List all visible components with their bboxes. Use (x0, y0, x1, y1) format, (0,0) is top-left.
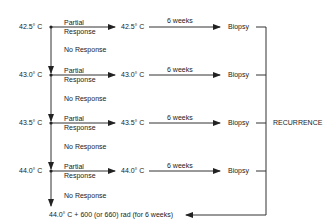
target-temp-1: 43.0° C (121, 71, 144, 79)
interval-2: 6 weeks (167, 114, 193, 122)
interval-1: 6 weeks (167, 66, 193, 74)
no-response-2: No Response (64, 143, 106, 151)
start-temp-2: 43.5° C (19, 119, 42, 127)
biopsy-1: Biopsy (228, 71, 249, 79)
biopsy-2: Biopsy (228, 119, 249, 127)
response-label-2: Response (64, 124, 96, 132)
start-temp-1: 43.0° C (19, 71, 42, 79)
partial-label-0: Partial (64, 19, 84, 27)
biopsy-3: Biopsy (228, 167, 249, 175)
start-temp-3: 44.0° C (19, 167, 42, 175)
no-response-3: No Response (64, 192, 106, 200)
interval-3: 6 weeks (167, 162, 193, 170)
target-temp-3: 44.0° C (121, 167, 144, 175)
partial-label-1: Partial (64, 67, 84, 75)
target-temp-0: 42.5° C (121, 23, 144, 31)
partial-label-2: Partial (64, 115, 84, 123)
response-label-0: Response (64, 28, 96, 36)
response-label-3: Response (64, 172, 96, 180)
biopsy-0: Biopsy (228, 23, 249, 31)
interval-0: 6 weeks (167, 17, 193, 25)
response-label-1: Response (64, 76, 96, 84)
start-temp-0: 42.5° C (19, 23, 42, 31)
no-response-1: No Response (64, 95, 106, 103)
final-treatment: 44.0° C + 600 (or 660) rad (for 6 weeks) (49, 211, 173, 219)
flow-lines (0, 0, 335, 221)
no-response-0: No Response (64, 46, 106, 54)
recurrence-label: RECURRENCE (273, 119, 322, 127)
partial-label-3: Partial (64, 163, 84, 171)
target-temp-2: 43.5° C (121, 119, 144, 127)
